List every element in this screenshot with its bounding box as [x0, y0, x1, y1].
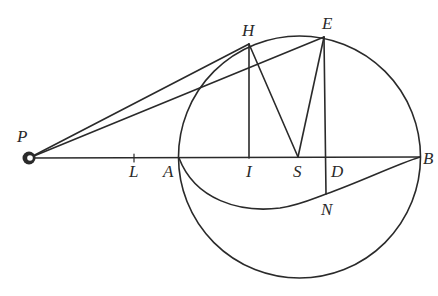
label-I: I [246, 163, 252, 180]
line-PE [29, 37, 324, 158]
line-PH [29, 44, 249, 158]
label-B: B [423, 150, 433, 167]
label-E: E [322, 15, 332, 32]
label-A: A [163, 163, 173, 180]
label-P: P [17, 128, 27, 145]
line-HS [249, 44, 298, 157]
label-D: D [331, 163, 343, 180]
line-ED [324, 37, 326, 194]
label-S: S [293, 163, 302, 180]
point-P-marker-center [27, 155, 33, 161]
line-SE [298, 37, 324, 157]
geometry-diagram [0, 0, 438, 296]
label-L: L [129, 163, 138, 180]
label-H: H [242, 22, 254, 39]
axis-line-PB [29, 157, 420, 158]
label-N: N [321, 201, 332, 218]
